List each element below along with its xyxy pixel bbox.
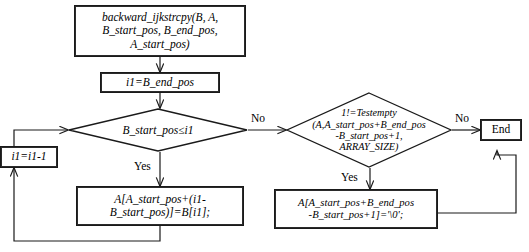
- edge-label-testempty-yes: Yes: [341, 171, 358, 183]
- terminate-string-node-label: A[A_start_pos+B_end_pos -B_start_pos+1]=…: [295, 197, 417, 221]
- init-node-frame: i1=B_end_pos: [101, 73, 219, 92]
- terminate-string-node-frame: A[A_start_pos+B_end_pos -B_start_pos+1]=…: [275, 190, 437, 228]
- copy-char-node-label: A[A_start_pos+(i1- B_start_pos)]=B[i1];: [107, 193, 213, 219]
- entry-node-frame: backward_ijkstrcpy(B, A, B_start_pos, B_…: [75, 6, 245, 56]
- edge-label-loopcond-no: No: [251, 112, 265, 124]
- decrement-node-frame: i1=i1-1: [1, 147, 57, 167]
- edge-decrement-to-loopcond: [14, 130, 68, 146]
- testempty-condition-node: 1!=Testempty (A,A_start_pos+B_end_pos -B…: [286, 92, 452, 168]
- loop-condition-label: B_start_pos≤i1: [68, 108, 248, 152]
- entry-node-label: backward_ijkstrcpy(B, A, B_start_pos, B_…: [99, 11, 221, 50]
- entry-node: backward_ijkstrcpy(B, A, B_start_pos, B_…: [74, 5, 246, 57]
- end-node-label: End: [489, 123, 514, 136]
- init-node-label: i1=B_end_pos: [123, 76, 197, 89]
- decrement-node: i1=i1-1: [0, 146, 58, 168]
- decrement-node-label: i1=i1-1: [8, 150, 49, 163]
- loop-condition-node: B_start_pos≤i1: [68, 108, 248, 152]
- copy-char-node-frame: A[A_start_pos+(i1- B_start_pos)]=B[i1];: [77, 187, 243, 225]
- edge-label-loopcond-yes: Yes: [134, 160, 151, 172]
- edge-label-testempty-no: No: [455, 112, 469, 124]
- testempty-condition-label: 1!=Testempty (A,A_start_pos+B_end_pos -B…: [286, 92, 452, 168]
- end-node-frame: End: [481, 120, 521, 140]
- terminate-string-node: A[A_start_pos+B_end_pos -B_start_pos+1]=…: [274, 189, 438, 229]
- end-node: End: [480, 119, 522, 141]
- init-node: i1=B_end_pos: [100, 72, 220, 93]
- copy-char-node: A[A_start_pos+(i1- B_start_pos)]=B[i1];: [76, 186, 244, 226]
- flowchart-canvas: backward_ijkstrcpy(B, A, B_start_pos, B_…: [0, 0, 529, 252]
